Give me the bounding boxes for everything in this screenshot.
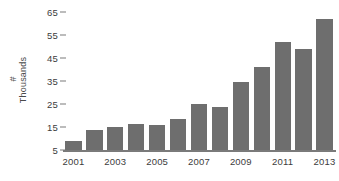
bar [107, 127, 123, 150]
bar [254, 67, 270, 150]
x-tick-label: 2007 [188, 156, 210, 167]
bar [128, 124, 144, 150]
plot-area [63, 7, 335, 150]
bar [86, 130, 102, 150]
bar [191, 104, 207, 150]
y-tick-label: 45 [30, 53, 58, 64]
y-tick-label: 5 [30, 145, 58, 156]
bar [233, 82, 249, 150]
bar [170, 119, 186, 150]
y-tick-label: 25 [30, 99, 58, 110]
x-tick-label: 2013 [314, 156, 336, 167]
bar [316, 19, 332, 150]
y-tick-label: 65 [30, 7, 58, 18]
x-tick-label: 2003 [104, 156, 126, 167]
x-tick-label: 2011 [272, 156, 293, 167]
x-tick-label: 2001 [62, 156, 84, 167]
y-tick-label: 35 [30, 76, 58, 87]
bar-chart: # Thousands 5152535455565 20012003200520… [0, 0, 339, 181]
y-axis-label-hash: # [8, 76, 18, 81]
x-tick-label: 2009 [230, 156, 252, 167]
x-axis-tick-labels: 2001200320052007200920112013 [63, 156, 336, 176]
x-tick-label: 2005 [146, 156, 168, 167]
y-axis-label-text: Thousands [18, 57, 28, 103]
bar [295, 49, 311, 150]
y-tick-label: 55 [30, 30, 58, 41]
bar [65, 141, 81, 150]
y-tick-label: 15 [30, 122, 58, 133]
bar [149, 125, 165, 150]
bar [212, 107, 228, 150]
y-axis-tick-labels: 5152535455565 [30, 0, 58, 181]
bar [275, 42, 291, 150]
x-axis-line [63, 150, 336, 152]
